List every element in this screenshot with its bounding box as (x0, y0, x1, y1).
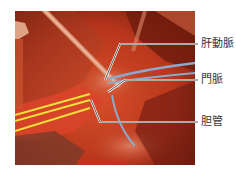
surgical-photo (15, 11, 195, 165)
label-portal-vein: 門脈 (201, 74, 223, 86)
label-bile-duct: 胆管 (201, 116, 223, 128)
label-hepatic-artery: 肝動脈 (201, 38, 234, 50)
surgical-figure: 肝動脈 門脈 胆管 (0, 0, 236, 172)
